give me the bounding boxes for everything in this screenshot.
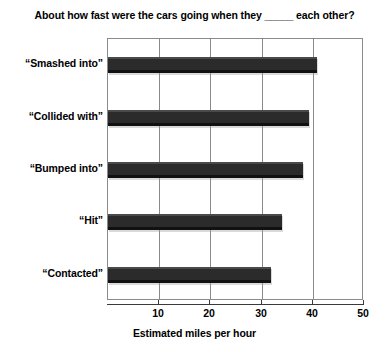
bar [108,214,282,230]
x-tick-40 [312,300,313,305]
x-tick-label-40: 40 [292,307,332,319]
category-label: “Hit” [0,214,103,226]
category-label: “Smashed into” [0,57,103,69]
chart-title: About how fast were the cars going when … [0,9,389,21]
x-axis-title: Estimated miles per hour [0,327,389,339]
x-tick-label-20: 20 [189,307,229,319]
bar [108,267,271,283]
category-axis-labels: “Smashed into”“Collided with”“Bumped int… [0,38,103,300]
x-tick-label-50: 50 [343,307,383,319]
plot-area [107,38,363,300]
category-label: “Collided with” [0,110,103,122]
bar-chart: About how fast were the cars going when … [0,0,389,352]
x-tick-label-10: 10 [138,307,178,319]
bar [108,57,317,73]
x-tick-20 [209,300,210,305]
x-tick-10 [158,300,159,305]
x-tick-30 [261,300,262,305]
gridline-40 [313,39,314,299]
bar [108,110,309,126]
x-axis-line [107,304,363,305]
x-tick-50 [363,300,364,305]
bar [108,162,303,178]
x-tick-label-30: 30 [241,307,281,319]
category-label: “Contacted” [0,267,103,279]
category-label: “Bumped into” [0,162,103,174]
